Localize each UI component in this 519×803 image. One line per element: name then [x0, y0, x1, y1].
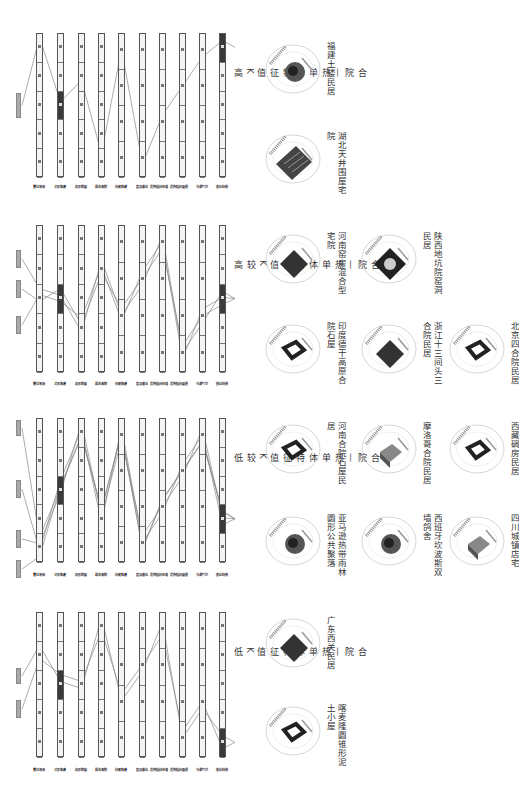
case-tag: [16, 250, 21, 268]
case-tag: [16, 700, 21, 718]
option-text-mark: [59, 326, 62, 329]
attribute-bar: [199, 418, 206, 562]
attribute-option: [58, 613, 63, 642]
attribute-option: [79, 671, 84, 700]
sun-path-dome-icon: [358, 418, 420, 480]
option-text-mark: [38, 711, 41, 714]
building-model: [262, 510, 324, 572]
option-text-mark: [161, 156, 164, 159]
attribute-option: [119, 70, 124, 106]
column-label: 院落布局: [97, 382, 107, 385]
option-text-mark: [120, 240, 123, 243]
attribute-option: [160, 455, 165, 491]
option-text-mark: [120, 627, 123, 630]
option-text-mark: [141, 700, 144, 703]
attribute-option: [220, 534, 225, 563]
option-text-mark: [100, 74, 103, 77]
building-model: [446, 418, 508, 480]
attribute-option: [79, 92, 84, 121]
option-text-mark: [141, 156, 144, 159]
attribute-option: [37, 92, 42, 121]
attribute-option: [79, 419, 84, 448]
attribute-option: [220, 63, 225, 92]
sun-path-dome-icon: [262, 318, 324, 380]
attribute-option: [140, 686, 145, 722]
attribute-option: [37, 255, 42, 284]
attribute-option: [99, 448, 104, 477]
column-label: 建筑朝向: [117, 382, 127, 385]
attribute-option: [58, 255, 63, 284]
column-label: 院落布局: [97, 768, 107, 771]
attribute-option: [220, 226, 225, 255]
attribute-option: [58, 285, 63, 314]
attribute-option: [140, 722, 145, 758]
option-text-mark: [100, 45, 103, 48]
building-model: [358, 418, 420, 480]
attribute-bar: [36, 225, 43, 372]
option-text-mark: [181, 84, 184, 87]
building-label: 四川城镇店宅: [508, 514, 519, 584]
option-text-mark: [221, 517, 224, 520]
attribute-option: [220, 255, 225, 284]
attribute-option: [140, 336, 145, 373]
option-text-mark: [201, 541, 204, 544]
column-label: 建筑形式: [56, 185, 66, 188]
option-text-mark: [141, 433, 144, 436]
option-text-mark: [80, 711, 83, 714]
attribute-option: [160, 34, 165, 70]
attribute-option: [58, 63, 63, 92]
building-model: [262, 612, 324, 674]
attribute-bar: [57, 225, 64, 372]
building-label: 福建土楼民居: [324, 42, 335, 112]
attribute-option: [58, 505, 63, 534]
attribute-option: [58, 120, 63, 149]
case-tag: [16, 93, 21, 118]
attribute-option: [220, 505, 225, 534]
column-label: 屋面材料/构造: [178, 185, 188, 189]
option-text-mark: [120, 663, 123, 666]
attribute-option: [58, 34, 63, 63]
attribute-option: [140, 263, 145, 300]
option-text-mark: [80, 355, 83, 358]
option-text-mark: [100, 160, 103, 163]
attribute-option: [37, 226, 42, 255]
attribute-bar: [118, 225, 125, 372]
option-text-mark: [59, 237, 62, 240]
building-model: [262, 700, 324, 762]
attribute-option: [160, 686, 165, 722]
attribute-option: [220, 285, 225, 314]
attribute-bar: [139, 225, 146, 372]
attribute-option: [99, 149, 104, 178]
option-text-mark: [100, 132, 103, 135]
column-label: 热特征值: [218, 185, 228, 188]
column-label: 场地位置: [35, 768, 45, 771]
column-label: 空气调节: [198, 382, 208, 385]
attribute-option: [37, 477, 42, 506]
attribute-bar: [159, 612, 166, 757]
option-text-mark: [221, 355, 224, 358]
column-label: 空气调节: [198, 185, 208, 188]
attribute-option: [37, 534, 42, 563]
attribute-option: [99, 34, 104, 63]
option-text-mark: [141, 736, 144, 739]
attribute-option: [119, 142, 124, 178]
column-label: 建筑朝向: [117, 768, 127, 771]
attribute-bar: [159, 418, 166, 562]
option-text-mark: [38, 430, 41, 433]
case-tag: [16, 280, 21, 298]
attribute-bar: [118, 33, 125, 177]
attribute-option: [58, 642, 63, 671]
option-text-mark: [80, 296, 83, 299]
attribute-option: [37, 505, 42, 534]
attribute-option: [79, 120, 84, 149]
attribute-option: [37, 285, 42, 314]
attribute-option: [37, 34, 42, 63]
attribute-option: [220, 700, 225, 729]
attribute-option: [99, 700, 104, 729]
option-text-mark: [201, 700, 204, 703]
attribute-option: [160, 527, 165, 563]
attribute-option: [160, 336, 165, 373]
option-text-mark: [59, 296, 62, 299]
sun-path-dome-icon: [446, 418, 508, 480]
option-text-mark: [161, 48, 164, 51]
